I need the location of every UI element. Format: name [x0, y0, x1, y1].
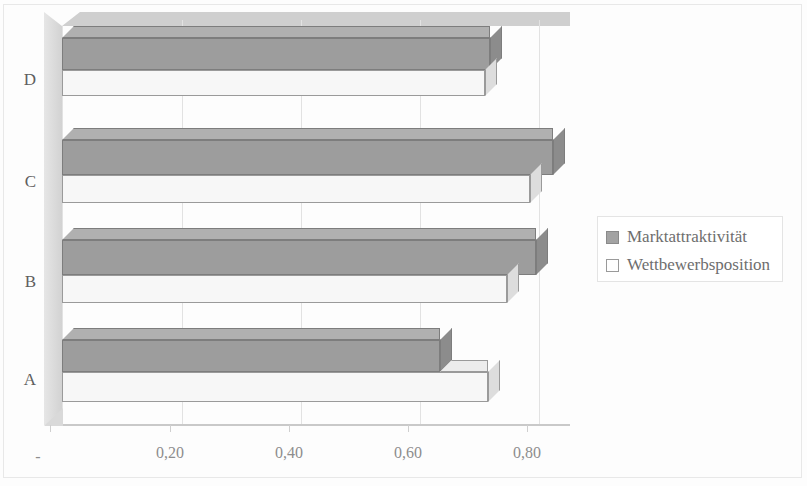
bar-C-marktattraktivitaet — [62, 140, 553, 175]
axis-side-wall — [44, 12, 62, 425]
gridline-080 — [539, 20, 540, 425]
legend-item-wettbewerbsposition: Wettbewerbsposition — [606, 253, 770, 277]
legend-swatch-icon — [606, 259, 619, 272]
bar-front-face — [62, 70, 485, 96]
y-axis-label-C: C — [6, 172, 36, 192]
bar-B-wettbewerbsposition — [62, 275, 507, 303]
y-axis-label-A: A — [6, 370, 36, 390]
tick-mark-080 — [527, 425, 528, 432]
legend-item-marktattraktivitaet: Marktattraktivität — [606, 225, 747, 249]
legend-swatch-icon — [606, 231, 619, 244]
bar-front-face — [62, 275, 507, 303]
tick-mark-060 — [408, 425, 409, 432]
tick-mark-040 — [289, 425, 290, 432]
chart-figure: D C B A - 0,20 0,40 0,60 0,80 Marktattra… — [0, 0, 807, 486]
bar-B-marktattraktivitaet — [62, 240, 536, 275]
legend-label: Marktattraktivität — [627, 227, 747, 247]
tick-mark-0 — [50, 425, 51, 432]
x-axis-tick-040: 0,40 — [254, 444, 324, 462]
bar-front-face — [62, 372, 488, 402]
x-axis-tick-0: - — [3, 448, 73, 466]
bar-C-wettbewerbsposition — [62, 175, 530, 203]
bar-front-face — [62, 340, 440, 372]
x-axis-tick-080: 0,80 — [492, 444, 562, 462]
bar-top-face — [62, 228, 536, 240]
legend-label: Wettbewerbsposition — [627, 255, 770, 275]
y-axis-label-D: D — [6, 70, 36, 90]
axis-floor — [62, 12, 570, 26]
y-axis-label-B: B — [6, 272, 36, 292]
bar-front-face — [62, 38, 490, 70]
chart-legend: Marktattraktivität Wettbewerbsposition — [597, 216, 783, 282]
bar-front-face — [62, 175, 530, 203]
axis-baseline — [50, 424, 570, 426]
x-axis-tick-060: 0,60 — [373, 444, 443, 462]
bar-front-face — [62, 140, 553, 175]
bar-A-wettbewerbsposition — [62, 372, 488, 402]
bar-top-face — [62, 26, 490, 38]
tick-mark-020 — [170, 425, 171, 432]
bar-D-wettbewerbsposition — [62, 70, 485, 96]
bar-top-face — [62, 128, 553, 140]
x-axis-tick-020: 0,20 — [135, 444, 205, 462]
bar-end-cap — [488, 360, 500, 402]
bar-A-marktattraktivitaet — [62, 340, 440, 372]
bar-top-face — [62, 328, 440, 340]
bar-D-marktattraktivitaet — [62, 38, 490, 70]
bar-end-cap — [536, 228, 548, 275]
bar-front-face — [62, 240, 536, 275]
bar-end-cap — [553, 128, 565, 175]
